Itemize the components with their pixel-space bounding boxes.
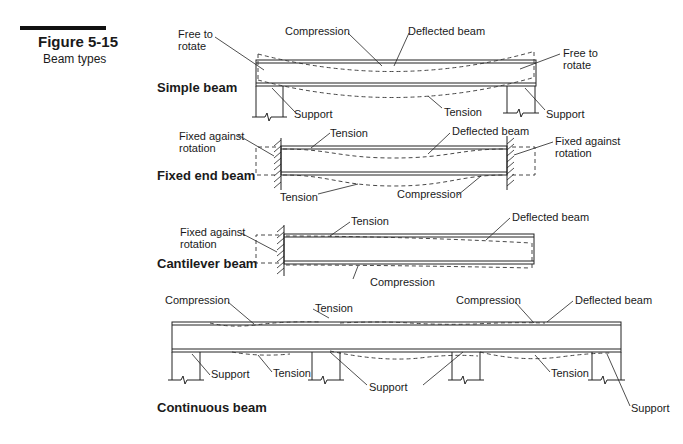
simple-support-right: [503, 86, 539, 117]
simple-deflected-bottom: [258, 78, 532, 98]
simple-label-free-left-2: rotate: [178, 40, 206, 52]
cantilever-label-deflected: Deflected beam: [512, 211, 589, 223]
fixed-wall-left: [274, 138, 281, 190]
continuous-support-2: [308, 352, 344, 384]
cantilever-label-compression: Compression: [370, 276, 435, 288]
fixed-label-fixed-left-1: Fixed against: [179, 130, 244, 142]
simple-beam-title: Simple beam: [157, 80, 237, 95]
simple-beam-diagram: Free to rotate Compression Deflected bea…: [157, 25, 598, 121]
fixed-wall-right: [507, 136, 514, 190]
fixed-label-compression: Compression: [397, 188, 462, 200]
fixed-label-tension-top: Tension: [330, 127, 368, 139]
continuous-support-3: [448, 352, 484, 384]
continuous-label-support-1: Support: [211, 368, 250, 380]
continuous-support-1: [168, 352, 204, 384]
fixed-label-fixed-left-2: rotation: [179, 142, 216, 154]
simple-beam-body: [256, 60, 536, 86]
fixed-end-beam-diagram: Fixed against rotation Tension Deflected…: [157, 125, 620, 203]
continuous-label-tension-2: Tension: [551, 367, 589, 379]
fixed-label-deflected: Deflected beam: [452, 125, 529, 137]
simple-label-free-right-1: Free to: [563, 47, 598, 59]
simple-label-support-left: Support: [294, 108, 333, 120]
continuous-label-tension-top: Tension: [315, 302, 353, 314]
cantilever-wall: [277, 225, 284, 276]
simple-support-left: [252, 86, 287, 121]
simple-deflected-top: [258, 52, 532, 72]
cantilever-beam-body: [284, 234, 534, 264]
cantilever-label-fixed-1: Fixed against: [180, 226, 245, 238]
continuous-label-compression-left: Compression: [165, 294, 230, 306]
cantilever-beam-diagram: Fixed against rotation Tension Deflected…: [157, 211, 589, 288]
continuous-beam-title: Continuous beam: [157, 400, 267, 415]
beam-types-diagram: Free to rotate Compression Deflected bea…: [0, 0, 683, 444]
continuous-label-compression-right: Compression: [456, 294, 521, 306]
fixed-label-tension-bottom: Tension: [280, 191, 318, 203]
cantilever-label-fixed-2: rotation: [180, 238, 217, 250]
simple-label-free-right-2: rotate: [563, 59, 591, 71]
simple-label-deflected: Deflected beam: [408, 25, 485, 37]
continuous-beam-diagram: Compression Tension Compression Deflecte…: [157, 294, 670, 415]
continuous-support-4: [588, 352, 625, 384]
fixed-label-fixed-right-1: Fixed against: [555, 135, 620, 147]
fixed-end-beam-title: Fixed end beam: [157, 168, 255, 183]
simple-label-support-right: Support: [546, 108, 585, 120]
continuous-label-deflected: Deflected beam: [575, 294, 652, 306]
continuous-label-tension-1: Tension: [273, 367, 311, 379]
continuous-label-support-right: Support: [631, 402, 670, 414]
fixed-label-fixed-right-2: rotation: [555, 147, 592, 159]
simple-label-compression: Compression: [285, 25, 350, 37]
cantilever-label-tension: Tension: [351, 215, 389, 227]
simple-label-tension: Tension: [444, 106, 482, 118]
continuous-label-support-mid: Support: [369, 381, 408, 393]
simple-label-free-left-1: Free to: [178, 28, 213, 40]
cantilever-beam-title: Cantilever beam: [157, 256, 257, 271]
